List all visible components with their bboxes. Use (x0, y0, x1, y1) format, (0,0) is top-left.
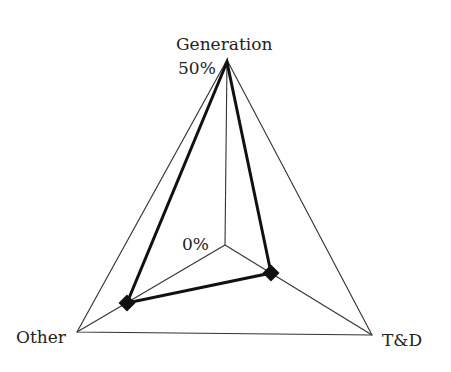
axis-label-generation: Generation (176, 34, 272, 54)
axis-label-td: T&D (382, 330, 422, 350)
radar-frame (77, 60, 372, 335)
data-marker-td (263, 265, 280, 282)
tick-label-max: 50% (178, 58, 216, 78)
tick-label-min: 0% (182, 234, 209, 254)
axis-td (225, 245, 372, 335)
data-marker-other (119, 295, 136, 312)
axis-generation (225, 60, 227, 245)
data-series-polygon (127, 62, 271, 303)
axis-label-other: Other (16, 327, 67, 347)
radar-chart: Generation 50% 0% Other T&D (0, 0, 451, 372)
